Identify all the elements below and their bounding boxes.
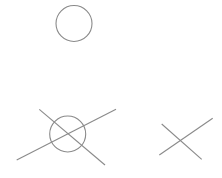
circle-alone <box>56 6 92 42</box>
line-segment <box>159 118 212 155</box>
line-segment <box>162 124 202 159</box>
circle-shape <box>56 6 92 42</box>
line-segment <box>39 109 105 165</box>
crossing-lines <box>159 118 212 159</box>
diagram-canvas <box>0 0 222 178</box>
circle-with-crossing-lines <box>17 109 116 165</box>
